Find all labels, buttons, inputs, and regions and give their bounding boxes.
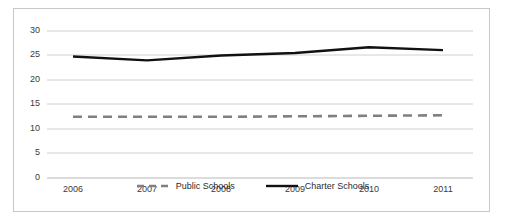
chart-frame: 30 25 20 15 10 5 0 2006 2007 2008 2009 2… [13,8,490,212]
dashed-line-swatch-icon [136,182,170,190]
legend-item-public-schools: Public Schools [136,181,235,191]
legend-item-charter-schools: Charter Schools [265,181,370,191]
legend-label-public-schools: Public Schools [176,181,235,191]
legend-label-charter-schools: Charter Schools [305,181,370,191]
chart-legend: Public Schools Charter Schools [14,181,491,191]
series-line-public-schools [73,115,443,117]
solid-line-swatch-icon [265,182,299,190]
series-line-charter-schools [73,47,443,60]
